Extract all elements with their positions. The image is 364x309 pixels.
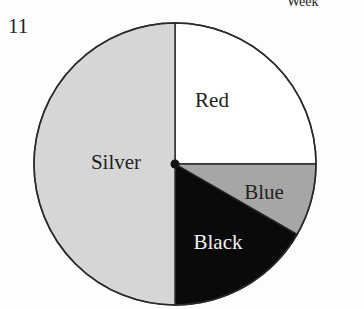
center-dot: [171, 160, 180, 169]
pie-chart: RedBlueBlackSilver: [0, 0, 364, 309]
slice-label-silver: Silver: [91, 150, 141, 174]
slice-label-red: Red: [195, 88, 229, 112]
slice-label-black: Black: [194, 230, 243, 254]
slice-label-blue: Blue: [244, 180, 284, 204]
